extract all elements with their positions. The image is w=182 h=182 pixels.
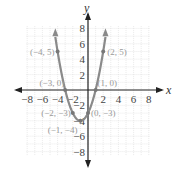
y-axis-label: y (83, 1, 90, 15)
x-tick-label: 6 (131, 93, 137, 105)
parabola-graph: x y −8−6−4−224688642−2−4−6−8 (−4, 5)(2, … (0, 0, 182, 182)
data-point (71, 111, 75, 115)
x-tick-label: −4 (52, 93, 64, 105)
y-tick-label: −8 (73, 146, 85, 158)
data-point (63, 88, 67, 92)
x-tick-label: −6 (37, 93, 49, 105)
x-tick-label: 4 (116, 93, 122, 105)
x-tick-label: −8 (21, 93, 33, 105)
point-label: (2, 5) (107, 47, 127, 57)
y-tick-label: 4 (80, 53, 86, 65)
y-tick-label: 2 (80, 69, 86, 81)
y-tick-label: −2 (73, 99, 85, 111)
data-point (56, 50, 60, 54)
arrow-right-icon (156, 87, 164, 93)
point-label: (1, 0) (98, 78, 118, 88)
point-label: (−2, −3) (41, 108, 71, 118)
x-axis-label: x (165, 83, 172, 97)
point-label: (0, −3) (91, 108, 116, 118)
arrow-down-icon (85, 160, 91, 168)
data-point (101, 50, 105, 54)
y-tick-label: 6 (80, 38, 86, 50)
data-point (78, 119, 82, 123)
data-point (94, 88, 98, 92)
x-tick-label: 8 (146, 93, 152, 105)
point-label: (−3, 0) (40, 78, 65, 88)
point-label: (−4, 5) (30, 47, 55, 57)
data-point (86, 111, 90, 115)
x-tick-label: 2 (100, 93, 106, 105)
point-label: (−1, −4) (48, 125, 78, 135)
y-tick-label: 8 (80, 22, 86, 34)
